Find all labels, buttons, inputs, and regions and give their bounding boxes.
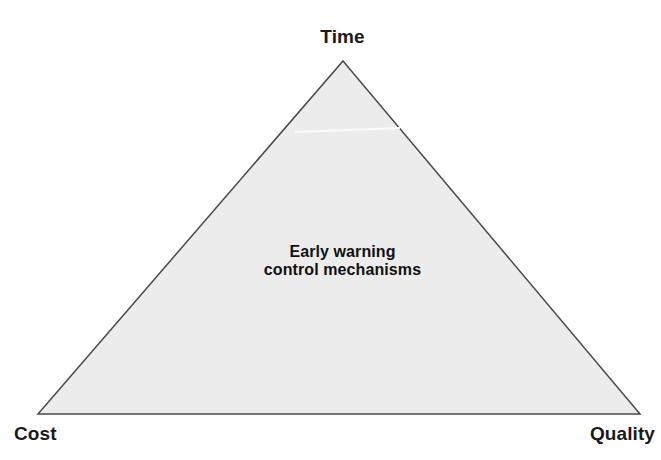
vertex-label-cost: Cost [14, 424, 57, 443]
vertex-label-time: Time [12, 27, 661, 46]
center-caption-line-1: Early warning [12, 243, 661, 261]
center-caption: Early warning control mechanisms [12, 243, 661, 279]
triangle-diagram: Time Cost Quality Early warning control … [0, 0, 661, 460]
triangle-shape [38, 61, 640, 414]
center-caption-line-2: control mechanisms [12, 261, 661, 279]
triangle-graphic [0, 0, 661, 460]
vertex-label-quality: Quality [590, 424, 655, 443]
